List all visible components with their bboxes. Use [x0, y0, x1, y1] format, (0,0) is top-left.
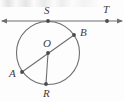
point-label-o: O — [43, 38, 51, 49]
point-marker-a — [20, 70, 24, 74]
radius-segment-OR — [46, 53, 48, 84]
point-marker-t — [105, 19, 109, 23]
point-label-b: B — [80, 27, 87, 38]
point-marker-o — [46, 51, 50, 55]
geometry-diagram — [0, 0, 124, 102]
point-marker-r — [44, 82, 48, 86]
point-marker-s — [46, 19, 50, 23]
point-label-a: A — [9, 68, 16, 79]
point-label-s: S — [44, 5, 50, 16]
arrow-right-icon — [117, 18, 123, 23]
point-markers — [20, 19, 109, 86]
arrow-left-icon — [1, 18, 7, 23]
geometry-figure: S T O B A R — [0, 0, 124, 102]
tangent-line-group — [1, 18, 123, 23]
point-marker-b — [72, 33, 76, 37]
point-label-t: T — [103, 4, 109, 15]
point-label-r: R — [43, 88, 50, 99]
